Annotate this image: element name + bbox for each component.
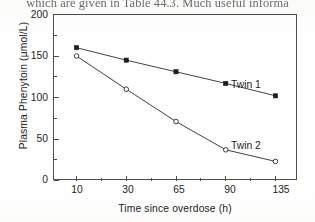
data-point: [273, 159, 278, 164]
data-point: [74, 54, 79, 59]
series-twin-1: [74, 46, 277, 98]
page-running-text: which are given in Table 44.3. Much usef…: [0, 0, 315, 11]
x-tick-label: 30: [111, 184, 145, 195]
phenytoin-decay-chart: 200 150 100 50 0 10 30 65 90 135 Plasma …: [0, 0, 315, 222]
series-label-twin-2: Twin 2: [231, 140, 261, 151]
series-label-twin-1: Twin 1: [231, 79, 261, 90]
y-tick-label: 0: [14, 174, 48, 185]
data-point: [224, 81, 228, 85]
data-point: [174, 70, 178, 74]
axis-ticks: [54, 15, 276, 181]
data-point: [124, 87, 129, 92]
x-axis-title: Time since overdose (h): [53, 203, 297, 214]
page-running-text-line: which are given in Table 44.3. Much usef…: [0, 0, 315, 11]
x-tick-label: 10: [60, 184, 94, 195]
data-point: [74, 46, 78, 50]
data-point: [273, 94, 277, 98]
data-point: [223, 147, 228, 152]
data-point: [124, 58, 128, 62]
x-tick-label: 90: [213, 184, 247, 195]
data-point: [174, 119, 179, 124]
x-tick-label: 65: [162, 184, 196, 195]
y-axis-tick-labels: 200 150 100 50 0: [10, 0, 48, 222]
y-axis-title: Plasma Phenytoin (µmol/L): [18, 11, 29, 161]
x-tick-label: 135: [264, 184, 298, 195]
